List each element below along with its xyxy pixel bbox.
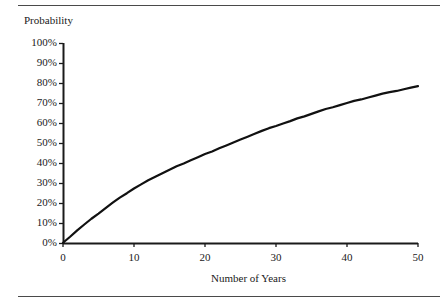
y-tick-label: 90% <box>15 57 57 68</box>
y-tick-label: 60% <box>15 117 57 128</box>
x-tick-label: 20 <box>185 252 225 263</box>
y-tick-label: 40% <box>15 157 57 168</box>
y-tick-label: 80% <box>15 77 57 88</box>
y-tick-marks <box>59 44 63 244</box>
x-tick-label: 10 <box>114 252 154 263</box>
y-tick-label: 70% <box>15 97 57 108</box>
y-tick-label: 10% <box>15 217 57 228</box>
y-tick-label: 20% <box>15 197 57 208</box>
x-tick-label: 50 <box>398 252 438 263</box>
y-tick-label: 0% <box>15 237 57 248</box>
y-tick-label: 100% <box>15 37 57 48</box>
figure-container: Probability Number of Years 0%10%20%30%4… <box>0 0 447 307</box>
y-tick-label: 30% <box>15 177 57 188</box>
probability-curve <box>63 86 418 243</box>
y-tick-label: 50% <box>15 137 57 148</box>
x-tick-label: 0 <box>43 252 83 263</box>
axis-lines <box>63 43 418 244</box>
x-tick-label: 40 <box>327 252 367 263</box>
x-tick-label: 30 <box>256 252 296 263</box>
